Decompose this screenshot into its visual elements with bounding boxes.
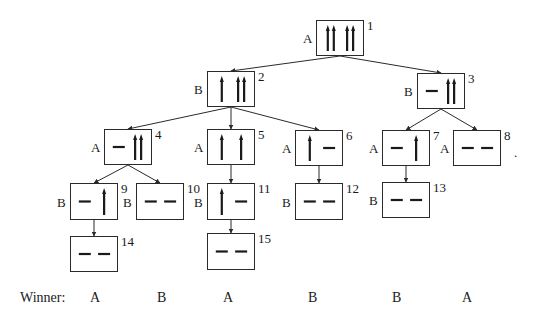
player-label: B (369, 194, 378, 207)
stick-heaps-icon (296, 184, 342, 219)
player-label: B (57, 196, 66, 209)
stick-heaps-icon (317, 21, 363, 55)
tree-edge (406, 109, 441, 130)
stick-heaps-icon (208, 184, 254, 219)
tree-node-10 (136, 183, 184, 220)
player-label: A (369, 142, 378, 155)
tree-node-13 (382, 182, 430, 218)
player-label: A (194, 141, 203, 154)
node-number: 11 (258, 182, 271, 195)
player-label: A (91, 141, 100, 154)
tree-node-5 (207, 129, 255, 165)
tree-node-1 (316, 20, 364, 56)
stick-heaps-icon (383, 183, 429, 217)
node-number: 2 (258, 70, 265, 83)
stick-heaps-icon (137, 184, 183, 219)
stick-heaps-icon (383, 131, 429, 165)
winner-value: A (462, 290, 472, 306)
tree-edge (441, 109, 477, 130)
tree-node-4 (104, 129, 152, 165)
tree-node-12 (295, 183, 343, 220)
node-number: 15 (258, 232, 271, 245)
node-number: 14 (121, 235, 134, 248)
trailing-period: . (514, 145, 517, 161)
node-number: 7 (433, 129, 440, 142)
tree-edge (231, 56, 340, 71)
node-number: 3 (468, 72, 475, 85)
tree-node-7 (382, 130, 430, 166)
winner-value: A (90, 290, 100, 306)
node-number: 12 (346, 182, 359, 195)
tree-node-15 (207, 233, 255, 270)
stick-heaps-icon (71, 184, 117, 219)
node-number: 4 (155, 128, 162, 141)
stick-heaps-icon (208, 234, 254, 269)
node-number: 10 (187, 182, 200, 195)
tree-edge (128, 107, 231, 129)
player-label: A (303, 32, 312, 45)
winner-label: Winner: (20, 290, 65, 306)
tree-node-3 (417, 73, 465, 109)
tree-node-8 (453, 130, 501, 166)
player-label: B (404, 85, 413, 98)
node-number: 1 (367, 19, 374, 32)
player-label: B (123, 196, 132, 209)
player-label: B (282, 196, 291, 209)
node-number: 13 (433, 181, 446, 194)
tree-node-9 (70, 183, 118, 220)
player-label: B (194, 196, 203, 209)
winner-value: A (223, 290, 233, 306)
stick-heaps-icon (105, 130, 151, 164)
tree-edge (128, 165, 160, 183)
winner-value: B (392, 290, 401, 306)
node-number: 6 (346, 129, 353, 142)
winner-value: B (308, 290, 317, 306)
player-label: B (194, 83, 203, 96)
stick-heaps-icon (208, 72, 254, 106)
node-number: 5 (258, 128, 265, 141)
node-number: 9 (121, 182, 128, 195)
player-label: A (282, 142, 291, 155)
tree-edge (231, 107, 319, 130)
winner-value: B (157, 290, 166, 306)
player-label: A (440, 142, 449, 155)
stick-heaps-icon (71, 237, 117, 271)
tree-node-14 (70, 236, 118, 272)
tree-node-11 (207, 183, 255, 220)
stick-heaps-icon (296, 131, 342, 165)
stick-heaps-icon (454, 131, 500, 165)
stick-heaps-icon (208, 130, 254, 164)
node-number: 8 (504, 129, 511, 142)
stick-heaps-icon (418, 74, 464, 108)
tree-edge (340, 56, 441, 73)
game-tree-diagram: 1A2B3B4A5A6A7A8A9B10B11B12B13B1415 . (0, 0, 536, 321)
tree-node-2 (207, 71, 255, 107)
tree-node-6 (295, 130, 343, 166)
